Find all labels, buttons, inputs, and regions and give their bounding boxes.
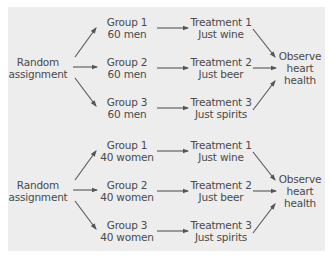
node-text: Observe bbox=[279, 173, 321, 185]
node-text: assignment bbox=[8, 68, 67, 80]
group-name: Group 2 bbox=[107, 56, 148, 68]
node-text: heart bbox=[279, 62, 321, 74]
treatment-node: Treatment 1 Just wine bbox=[190, 16, 251, 40]
group-node: Group 2 40 women bbox=[100, 179, 153, 203]
arrow-icon bbox=[253, 81, 275, 110]
treatment-name: Treatment 3 bbox=[190, 219, 251, 231]
group-name: Group 3 bbox=[107, 96, 148, 108]
treatment-desc: Just beer bbox=[190, 68, 251, 80]
arrow-icon bbox=[75, 201, 96, 229]
group-size: 60 men bbox=[107, 68, 148, 80]
group-name: Group 1 bbox=[100, 139, 153, 151]
treatment-desc: Just wine bbox=[190, 151, 251, 163]
arrows-layer bbox=[0, 0, 331, 258]
group-node: Group 2 60 men bbox=[107, 56, 148, 80]
treatment-node: Treatment 2 Just beer bbox=[190, 56, 251, 80]
treatment-desc: Just spirits bbox=[190, 108, 251, 120]
group-size: 40 women bbox=[100, 191, 153, 203]
group-node: Group 3 60 men bbox=[107, 96, 148, 120]
node-text: Random bbox=[8, 56, 67, 68]
outcome-node: Observe heart health bbox=[279, 50, 321, 86]
group-size: 40 women bbox=[100, 231, 153, 243]
treatment-node: Treatment 3 Just spirits bbox=[190, 219, 251, 243]
treatment-name: Treatment 1 bbox=[190, 139, 251, 151]
node-text: health bbox=[279, 197, 321, 209]
node-text: assignment bbox=[8, 191, 67, 203]
treatment-name: Treatment 2 bbox=[190, 179, 251, 191]
arrow-icon bbox=[253, 204, 275, 233]
treatment-node: Treatment 3 Just spirits bbox=[190, 96, 251, 120]
arrow-icon bbox=[75, 78, 96, 106]
treatment-name: Treatment 2 bbox=[190, 56, 251, 68]
treatment-desc: Just beer bbox=[190, 191, 251, 203]
outcome-node: Observe heart health bbox=[279, 173, 321, 209]
group-name: Group 3 bbox=[100, 219, 153, 231]
arrow-icon bbox=[75, 151, 96, 180]
group-size: 40 women bbox=[100, 151, 153, 163]
treatment-node: Treatment 2 Just beer bbox=[190, 179, 251, 203]
arrow-icon bbox=[75, 28, 96, 57]
random-assignment-node: Random assignment bbox=[8, 56, 67, 80]
node-text: Observe bbox=[279, 50, 321, 62]
group-node: Group 3 40 women bbox=[100, 219, 153, 243]
node-text: heart bbox=[279, 185, 321, 197]
group-size: 60 men bbox=[107, 108, 148, 120]
treatment-desc: Just wine bbox=[190, 28, 251, 40]
group-name: Group 2 bbox=[100, 179, 153, 191]
group-size: 60 men bbox=[107, 28, 148, 40]
treatment-name: Treatment 1 bbox=[190, 16, 251, 28]
group-name: Group 1 bbox=[107, 16, 148, 28]
arrow-icon bbox=[253, 29, 275, 57]
treatment-desc: Just spirits bbox=[190, 231, 251, 243]
treatment-name: Treatment 3 bbox=[190, 96, 251, 108]
treatment-node: Treatment 1 Just wine bbox=[190, 139, 251, 163]
node-text: health bbox=[279, 74, 321, 86]
arrow-icon bbox=[253, 152, 275, 180]
node-text: Random bbox=[8, 179, 67, 191]
group-node: Group 1 60 men bbox=[107, 16, 148, 40]
random-assignment-node: Random assignment bbox=[8, 179, 67, 203]
group-node: Group 1 40 women bbox=[100, 139, 153, 163]
